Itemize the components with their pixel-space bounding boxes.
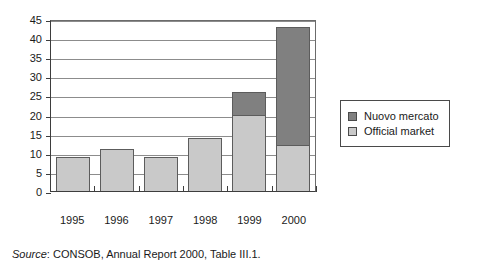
y-axis-tick-label: 10 — [18, 148, 42, 159]
bar-segment-nuovo-mercato — [232, 92, 266, 115]
legend-swatch-icon — [348, 112, 357, 121]
y-axis-tick-label: 20 — [18, 110, 42, 121]
chart-legend: Nuovo mercatoOfficial market — [340, 100, 450, 147]
bar-group-1999 — [227, 21, 271, 191]
stacked-bar — [56, 157, 90, 191]
source-text: : CONSOB, Annual Report 2000, Table III.… — [47, 248, 261, 260]
x-axis-tick-mark — [272, 186, 273, 192]
x-axis-tick-label: 1997 — [139, 214, 183, 226]
y-axis-tick-label: 5 — [18, 167, 42, 178]
bar-segment-official-market — [144, 157, 178, 191]
x-axis-ticks — [50, 192, 316, 208]
x-axis-tick-mark — [183, 186, 184, 192]
bar-series-group — [51, 21, 315, 191]
y-axis-tick-label: 30 — [18, 72, 42, 83]
bar-chart: 454035302520151050 199519961997199819992… — [8, 8, 338, 236]
x-axis-tick-mark — [316, 186, 317, 192]
legend-item[interactable]: Nuovo mercato — [348, 110, 439, 122]
x-axis-tick-mark — [50, 186, 51, 192]
legend-item-label: Official market — [364, 125, 434, 137]
bar-group-1998 — [183, 21, 227, 191]
bar-segment-official-market — [56, 157, 90, 191]
bar-group-1997 — [139, 21, 183, 191]
x-axis-labels: 199519961997199819992000 — [50, 214, 316, 226]
legend-swatch-icon — [348, 127, 357, 136]
y-axis: 454035302520151050 — [8, 8, 42, 236]
bar-segment-official-market — [188, 138, 222, 192]
x-axis-tick-label: 2000 — [272, 214, 316, 226]
y-axis-tick-label: 25 — [18, 91, 42, 102]
bar-segment-official-market — [276, 145, 310, 191]
stacked-bar — [100, 149, 134, 191]
y-axis-tick-label: 15 — [18, 129, 42, 140]
source-caption: Source: CONSOB, Annual Report 2000, Tabl… — [12, 248, 261, 261]
x-axis-tick-label: 1995 — [50, 214, 94, 226]
y-axis-tick-label: 40 — [18, 34, 42, 45]
figure: 454035302520151050 199519961997199819992… — [0, 0, 478, 267]
bar-segment-official-market — [232, 115, 266, 191]
x-axis-tick-mark — [227, 186, 228, 192]
legend-item-label: Nuovo mercato — [364, 110, 439, 122]
stacked-bar — [232, 92, 266, 191]
y-axis-tick-label: 45 — [18, 15, 42, 26]
legend-item[interactable]: Official market — [348, 125, 439, 137]
bar-group-2000 — [271, 21, 315, 191]
x-axis-tick-label: 1999 — [227, 214, 271, 226]
bar-group-1996 — [95, 21, 139, 191]
bar-segment-official-market — [100, 149, 134, 191]
x-axis-tick-label: 1996 — [94, 214, 138, 226]
y-axis-tick-label: 35 — [18, 53, 42, 64]
x-axis-tick-mark — [94, 186, 95, 192]
stacked-bar — [188, 138, 222, 192]
bar-segment-nuovo-mercato — [276, 27, 310, 145]
bar-group-1995 — [51, 21, 95, 191]
y-axis-tick-label: 0 — [18, 187, 42, 198]
plot-area — [50, 20, 316, 192]
stacked-bar — [276, 27, 310, 191]
stacked-bar — [144, 157, 178, 191]
x-axis-tick-mark — [139, 186, 140, 192]
x-axis-tick-label: 1998 — [183, 214, 227, 226]
source-label: Source — [12, 248, 47, 260]
